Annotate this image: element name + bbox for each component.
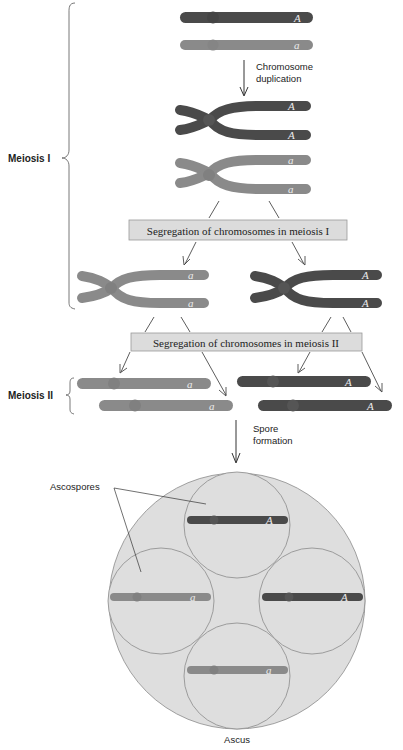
ascospore-bottom: a [184,623,290,729]
meiosis-2-bracket [66,378,74,414]
chromosome-duplication-label: Chromosome [256,61,313,72]
meiosis-1-product-a [82,275,204,303]
ascospore-left: a [108,548,214,654]
allele-label: A [265,514,273,526]
initial-chromosome-A: A [180,12,313,25]
allele-label: A [287,129,295,141]
allele-label: a [266,664,272,676]
segregation-arrows-2 [120,352,382,396]
allele-label: a [188,297,194,309]
allele-label: a [294,39,300,51]
allele-label: a [288,154,294,166]
allele-label: A [361,297,369,309]
ascus-label: Ascus [224,734,250,745]
allele-label: a [188,269,194,281]
spore-formation-arrow [232,420,240,463]
initial-chromosome-a: a [180,39,313,51]
allele-label: A [366,400,374,412]
allele-label: a [288,183,294,195]
allele-label: a [187,378,193,390]
meiosis-2-product-A-2: A [258,400,392,413]
segregation-meiosis-2-box: Segregation of chromosomes in meiosis II [131,333,362,351]
spore-formation-label: formation [253,435,293,446]
meiosis-2-product-A-1: A [237,376,371,389]
allele-label: A [287,100,295,112]
segregation-meiosis-1-box: Segregation of chromosomes in meiosis I [129,220,347,240]
allele-label: a [209,400,215,412]
allele-label: A [293,12,301,24]
allele-label: A [361,269,369,281]
ascospores-label: Ascospores [50,481,100,492]
duplication-arrow [240,60,248,96]
meiosis-1-product-A [255,275,377,303]
meiosis-2-label: Meiosis II [8,390,53,401]
meiosis-2-product-a-2: a [99,400,233,413]
spore-formation-label: Spore [253,423,278,434]
segregation-meiosis-2-label: Segregation of chromosomes in meiosis II [153,337,339,349]
allele-label: a [190,591,196,603]
segregation-arrows-1 [183,242,305,265]
meiosis-diagram: A a Chromosome duplication A A a a Segre… [0,0,403,750]
meiosis-2-product-a-1: a [77,378,211,391]
allele-label: A [344,376,352,388]
meiosis-1-label: Meiosis I [8,153,50,164]
ascospore-top: A [184,472,290,578]
meiosis-1-bracket [62,3,75,309]
chromosome-duplication-label: duplication [256,73,301,84]
ascospore-right: A [259,548,365,654]
allele-label: A [340,591,348,603]
segregation-meiosis-1-label: Segregation of chromosomes in meiosis I [147,225,330,237]
